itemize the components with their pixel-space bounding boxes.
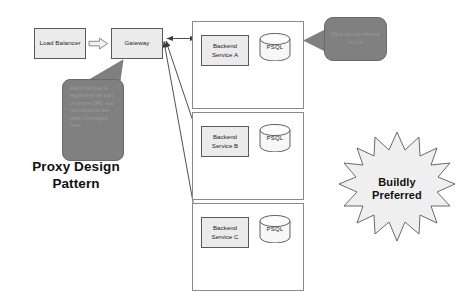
buildly-preferred-badge: Buildly Preferred <box>338 130 456 248</box>
backend-service-a-node[interactable]: Backend Service A <box>201 35 249 66</box>
database-cylinder-a: PSQL <box>258 33 292 61</box>
backend-service-c-node[interactable]: Backend Service C <box>201 217 249 248</box>
database-cylinder-b: PSQL <box>258 124 292 152</box>
data-note-callout: Data can be shared or not <box>324 17 387 61</box>
service-container-b: Backend Service B PSQL <box>192 112 304 200</box>
database-label-a: PSQL <box>258 33 292 61</box>
backend-service-b-node[interactable]: Backend Service B <box>201 126 249 157</box>
diagram-canvas: Load Balancer Gateway Each service is re… <box>0 0 468 296</box>
badge-label-group: Buildly Preferred <box>338 130 456 248</box>
arrow-load-balancer-to-gateway <box>89 38 108 49</box>
database-label-b: PSQL <box>258 124 292 152</box>
badge-line-2: Preferred <box>372 189 422 202</box>
service-container-c: Backend Service C PSQL <box>192 203 304 291</box>
gateway-node[interactable]: Gateway <box>111 28 163 59</box>
badge-line-1: Buildly <box>378 176 415 189</box>
load-balancer-node[interactable]: Load Balancer <box>34 28 86 59</box>
database-cylinder-c: PSQL <box>258 215 292 243</box>
database-label-c: PSQL <box>258 215 292 243</box>
service-container-a: Backend Service A PSQL <box>192 21 304 109</box>
gateway-note-callout: Each service is registered as part of si… <box>62 79 124 161</box>
page-title: Proxy Design Pattern <box>10 158 142 193</box>
